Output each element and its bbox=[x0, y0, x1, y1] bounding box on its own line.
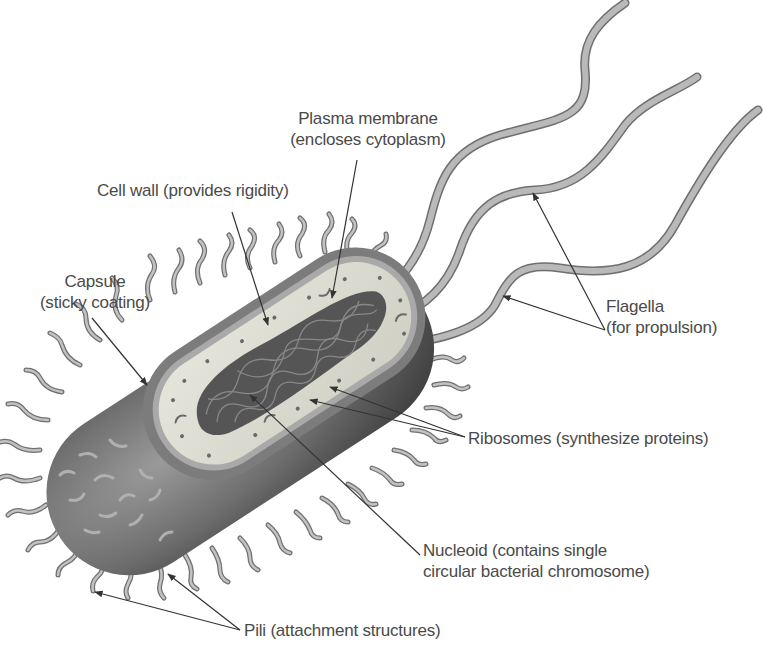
plasma-membrane-title: Plasma membrane bbox=[258, 108, 478, 129]
label-cell-wall: Cell wall (provides rigidity) bbox=[97, 180, 289, 201]
label-plasma-membrane: Plasma membrane (encloses cytoplasm) bbox=[258, 108, 478, 150]
label-ribosomes: Ribosomes (synthesize proteins) bbox=[468, 428, 708, 449]
pili-text: Pili (attachment structures) bbox=[244, 620, 441, 641]
label-nucleoid: Nucleoid (contains single circular bacte… bbox=[423, 540, 649, 582]
capsule-title: Capsule bbox=[26, 271, 164, 292]
capsule-leader bbox=[92, 318, 147, 385]
flagella bbox=[372, 3, 758, 345]
capsule-desc: (sticky coating) bbox=[26, 292, 164, 313]
nucleoid-desc: circular bacterial chromosome) bbox=[423, 561, 649, 582]
nucleoid-title: Nucleoid (contains single bbox=[423, 540, 649, 561]
cell-wall-text: Cell wall (provides rigidity) bbox=[97, 180, 289, 201]
flagellum-icon bbox=[372, 3, 625, 305]
flagella-desc: (for propulsion) bbox=[606, 317, 717, 338]
label-pili: Pili (attachment structures) bbox=[244, 620, 441, 641]
plasma-membrane-desc: (encloses cytoplasm) bbox=[258, 129, 478, 150]
pili-leader-1 bbox=[95, 592, 240, 630]
bacterial-cell-diagram: Plasma membrane (encloses cytoplasm) Cel… bbox=[0, 0, 763, 654]
ribosomes-text: Ribosomes (synthesize proteins) bbox=[468, 428, 708, 449]
label-flagella: Flagella (for propulsion) bbox=[606, 296, 717, 338]
label-capsule: Capsule (sticky coating) bbox=[26, 271, 164, 313]
flagella-title: Flagella bbox=[606, 296, 717, 317]
